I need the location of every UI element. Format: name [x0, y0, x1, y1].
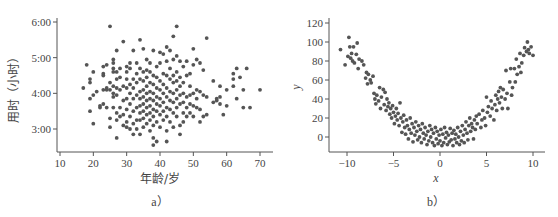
- x-tick-label: 10: [528, 157, 540, 169]
- data-point: [161, 109, 165, 113]
- data-point: [135, 118, 139, 122]
- data-point: [248, 106, 252, 110]
- data-point: [448, 126, 452, 130]
- data-point: [168, 120, 172, 124]
- data-point: [408, 116, 412, 120]
- data-point: [145, 106, 149, 110]
- data-point: [91, 122, 95, 126]
- data-point: [407, 137, 411, 141]
- data-point: [352, 45, 356, 49]
- data-point: [375, 93, 379, 97]
- data-point: [135, 81, 139, 85]
- data-point: [111, 95, 115, 99]
- data-point: [145, 68, 149, 72]
- data-point: [85, 63, 89, 67]
- data-point: [430, 127, 434, 131]
- data-point: [481, 109, 485, 113]
- data-point: [108, 24, 112, 28]
- data-point: [201, 68, 205, 72]
- data-point: [178, 124, 182, 128]
- data-point: [485, 95, 489, 99]
- data-point: [161, 83, 165, 87]
- data-point: [367, 72, 371, 76]
- data-point: [145, 75, 149, 79]
- data-point: [81, 86, 85, 90]
- data-point: [198, 90, 202, 94]
- data-point: [191, 115, 195, 119]
- data-point: [121, 84, 125, 88]
- data-point: [492, 118, 496, 122]
- data-point: [155, 109, 159, 113]
- data-point: [181, 91, 185, 95]
- data-point: [364, 76, 368, 80]
- data-point: [125, 65, 129, 69]
- data-point: [487, 105, 491, 109]
- data-point: [118, 88, 122, 92]
- data-point: [91, 93, 95, 97]
- panel-b-x-ticks: −10−50510: [338, 152, 539, 169]
- data-point: [148, 61, 152, 65]
- data-point: [393, 122, 397, 126]
- x-tick-label: −10: [338, 157, 356, 169]
- data-point: [191, 104, 195, 108]
- data-point: [420, 141, 424, 145]
- data-point: [496, 97, 500, 101]
- y-tick-label: 20: [312, 112, 324, 124]
- data-point: [135, 61, 139, 65]
- x-tick-label: 60: [221, 157, 233, 169]
- data-point: [437, 133, 441, 137]
- data-point: [131, 109, 135, 113]
- data-point: [395, 118, 399, 122]
- data-point: [175, 54, 179, 58]
- data-point: [178, 59, 182, 63]
- data-point: [138, 38, 142, 42]
- data-point: [155, 86, 159, 90]
- data-point: [198, 108, 202, 112]
- data-point: [423, 126, 427, 130]
- data-point: [441, 132, 445, 136]
- data-point: [463, 127, 467, 131]
- data-point: [158, 61, 162, 65]
- data-point: [405, 118, 409, 122]
- data-point: [131, 86, 135, 90]
- data-point: [466, 138, 470, 142]
- data-point: [115, 77, 119, 81]
- data-point: [185, 59, 189, 63]
- data-point: [101, 88, 105, 92]
- data-point: [115, 93, 119, 97]
- data-point: [188, 102, 192, 106]
- data-point: [181, 100, 185, 104]
- data-point: [105, 63, 109, 67]
- x-tick-label: 5: [484, 157, 490, 169]
- data-point: [175, 88, 179, 92]
- data-point: [522, 53, 526, 57]
- data-point: [195, 88, 199, 92]
- data-point: [155, 75, 159, 79]
- data-point: [369, 81, 373, 85]
- panel-b-parabola-scatter: 020406080100120 −10−50510 x y b）: [289, 17, 545, 209]
- data-point: [158, 50, 162, 54]
- data-point: [454, 132, 458, 136]
- data-point: [131, 77, 135, 81]
- data-point: [513, 80, 517, 84]
- data-point: [158, 79, 162, 83]
- data-point: [469, 129, 473, 133]
- y-tick-label: 6:00: [31, 16, 51, 28]
- data-point: [168, 77, 172, 81]
- data-point: [138, 111, 142, 115]
- data-point: [362, 63, 366, 67]
- data-point: [458, 143, 462, 147]
- data-point: [115, 118, 119, 122]
- data-point: [115, 70, 119, 74]
- data-point: [400, 130, 404, 134]
- data-point: [385, 97, 389, 101]
- data-point: [198, 120, 202, 124]
- x-tick-label: 70: [255, 157, 267, 169]
- data-point: [447, 133, 451, 137]
- data-point: [141, 109, 145, 113]
- data-point: [509, 67, 513, 71]
- data-point: [175, 115, 179, 119]
- data-point: [165, 115, 169, 119]
- data-point: [453, 137, 457, 141]
- data-point: [518, 52, 522, 56]
